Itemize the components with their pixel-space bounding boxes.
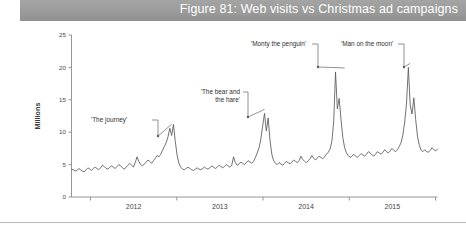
x-axis-tick-label: 2014	[298, 203, 314, 210]
annotation-monty-the-penguin: 'Monty the penguin'	[251, 40, 345, 68]
chart-plot-area: 05101520252012201320142015Millions 'The …	[0, 21, 466, 229]
x-axis-tick-label: 2012	[126, 203, 142, 210]
annotation-label: 'The bear and	[201, 88, 241, 95]
annotation-label: 'Monty the penguin'	[251, 40, 306, 48]
y-axis-tick-label: 20	[59, 64, 66, 71]
y-axis-title: Millions	[33, 103, 42, 130]
figure-container: Figure 81: Web visits vs Christmas ad ca…	[0, 0, 466, 229]
annotation-label: 'The journey'	[91, 116, 127, 124]
y-axis-tick-label: 15	[59, 96, 66, 103]
annotation-pointer	[318, 67, 345, 68]
annotation-the-bear-and-the-hare: 'The bear andthe hare'	[201, 88, 265, 118]
annotation-leader-line	[312, 44, 318, 67]
figure-bottom-rule	[0, 222, 466, 223]
line-chart-svg: 05101520252012201320142015Millions 'The …	[0, 21, 466, 229]
annotation-leader-line	[152, 120, 158, 136]
y-axis-tick-label: 5	[63, 161, 67, 168]
figure-title-bar: Figure 81: Web visits vs Christmas ad ca…	[20, 0, 466, 21]
annotation-man-on-the-moon: 'Man on the moon'	[341, 40, 410, 68]
annotation-label: 'Man on the moon'	[341, 40, 393, 47]
x-axis-tick-label: 2013	[212, 203, 228, 210]
y-axis-tick-label: 25	[59, 31, 66, 38]
x-axis-tick-label: 2015	[385, 203, 401, 210]
annotation-leader-line	[398, 44, 404, 67]
annotation-the-journey: 'The journey'	[91, 116, 172, 137]
annotation-leader-line	[243, 92, 248, 117]
annotation-label: the hare'	[215, 96, 240, 103]
chart-annotations-group: 'The journey''The bear andthe hare''Mont…	[91, 40, 410, 137]
y-axis-tick-label: 0	[63, 193, 67, 200]
annotation-pointer	[404, 63, 410, 67]
figure-title: Figure 81: Web visits vs Christmas ad ca…	[180, 2, 458, 16]
annotation-pointer	[248, 109, 265, 117]
y-axis-tick-label: 10	[59, 128, 66, 135]
